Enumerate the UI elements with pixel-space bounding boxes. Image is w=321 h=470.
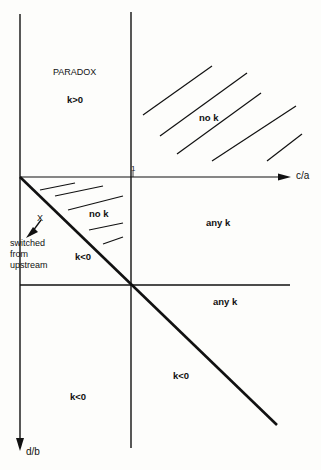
region-label-no-k-top: no k — [199, 113, 219, 123]
phase-diagram: PARADOX k>0 no k c/a 1 no k any k k<0 X … — [0, 0, 321, 470]
annotation-marker: X — [37, 214, 43, 223]
region-label-k-negative-bottom-right: k<0 — [173, 371, 189, 381]
x-axis-label: c/a — [296, 171, 309, 181]
region-label-no-k-triangle: no k — [89, 209, 109, 219]
x-axis-arrow-icon — [278, 174, 291, 181]
region-label-k-negative-triangle: k<0 — [75, 252, 91, 262]
region-label-k-negative-bottom-left: k<0 — [70, 392, 86, 402]
annotation-switched-from-upstream: switched from upstream — [10, 238, 60, 271]
y-axis-label: d/b — [26, 447, 40, 457]
region-label-any-k-mid: any k — [206, 218, 230, 228]
region-label-k-positive: k>0 — [67, 95, 83, 105]
hatching-top-right — [143, 66, 302, 161]
y-axis-arrow-icon — [16, 438, 24, 451]
tick-label-one: 1 — [131, 165, 135, 173]
diagram-lines — [0, 0, 321, 470]
region-label-paradox: PARADOX — [53, 68, 96, 77]
region-label-any-k-band: any k — [213, 297, 237, 307]
diagonal-boundary-line — [20, 177, 277, 425]
